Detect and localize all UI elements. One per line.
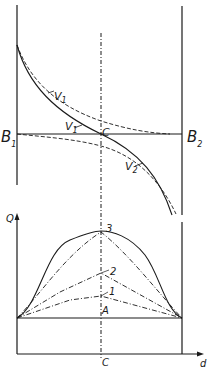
label-q-axis: Q — [6, 213, 14, 224]
curve-3-dashed — [17, 232, 182, 318]
curve-1-leader — [101, 292, 108, 296]
label-b1: B1 — [1, 128, 16, 149]
label-v1-upper: V1 — [54, 90, 67, 105]
d-axis-arrow-icon — [197, 352, 204, 357]
label-v1-lower: V1 — [65, 120, 78, 135]
label-a: A — [101, 305, 109, 316]
potential-and-charge-diagram: B1 B2 C V1 V1 V2 Q d C A 1 2 3 — [0, 0, 211, 370]
label-curve-1: 1 — [109, 286, 115, 297]
label-curve-3: 3 — [106, 223, 112, 234]
curve-2-leader — [101, 270, 109, 273]
v1-v2-solid-curve — [17, 45, 172, 215]
q-axis-arrow-icon — [15, 213, 20, 220]
curve-3-solid — [17, 231, 182, 318]
label-b2: B2 — [187, 128, 202, 149]
curve-1 — [17, 296, 182, 318]
label-center-c: C — [102, 126, 110, 139]
label-curve-2: 2 — [110, 266, 116, 277]
label-d-axis: d — [200, 358, 207, 369]
label-c-tick: C — [102, 357, 109, 368]
